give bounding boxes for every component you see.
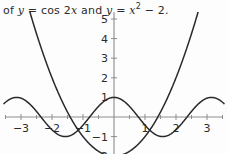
y-label-1: 1 — [101, 91, 108, 104]
figure-panel: of y = cos 2x and y = x2 − 2. −3−2−1123 … — [0, 0, 228, 154]
graph-plot-area: −3−2−1123 −2−112345 — [0, 12, 228, 154]
y-label-3: 3 — [101, 52, 108, 65]
y-label-neg1: −1 — [92, 131, 108, 144]
y-tick-labels: −2−112345 — [92, 13, 108, 154]
y-label-4: 4 — [101, 33, 108, 46]
y-label-5: 5 — [101, 13, 108, 26]
x-label-neg2: −2 — [44, 122, 60, 135]
x-label-1: 1 — [142, 122, 149, 135]
x-label-2: 2 — [173, 122, 180, 135]
y-label-neg2: −2 — [92, 150, 108, 154]
y-label-2: 2 — [101, 72, 108, 85]
x-label-3: 3 — [204, 122, 211, 135]
x-label-neg3: −3 — [13, 122, 29, 135]
axes-group — [6, 12, 222, 154]
x-label-neg1: −1 — [75, 122, 91, 135]
